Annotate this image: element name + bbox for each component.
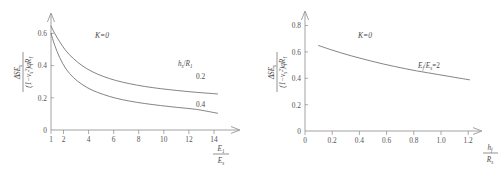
chart-panel-left: 0.6 0.4 0.2 0 1 2 4 6 8 10 <box>0 0 252 169</box>
right-ylab-den-close-sub: 1 <box>282 56 288 59</box>
left-y-axis-label: ΔSEs (1−νs2)qR1 <box>14 52 34 92</box>
right-xtick-5: 1.0 <box>436 136 446 145</box>
right-k-annotation: K=0 <box>357 31 372 40</box>
right-ytick-4: 0 <box>297 127 301 136</box>
left-family-den-sub: 1 <box>190 63 193 69</box>
left-xtick-6: 12 <box>185 135 193 144</box>
right-curve-label: Ef/Es=2 <box>417 62 440 71</box>
left-curve-label-0: 0.2 <box>196 72 206 81</box>
svg-text:ΔSEs: ΔSEs <box>268 65 277 80</box>
right-y-ticks: 0.8 0.6 0.4 0.2 0 <box>292 21 308 136</box>
left-ylab-num: ΔSE <box>14 66 22 80</box>
svg-text:(1−νs2)qR1: (1−νs2)qR1 <box>278 56 288 88</box>
right-y-axis-label: ΔSEs (1−νs2)qR1 <box>268 52 288 92</box>
left-xtick-4: 8 <box>137 135 141 144</box>
right-xtick-2: 0.4 <box>355 136 365 145</box>
curve-hs-R1-0.2 <box>51 26 218 94</box>
left-y-ticks: 0.6 0.4 0.2 0 <box>38 29 54 135</box>
left-chart-svg: 0.6 0.4 0.2 0 1 2 4 6 8 10 <box>0 0 252 169</box>
left-ylab-num-sub: s <box>17 65 23 67</box>
left-x-axis <box>51 127 240 134</box>
left-ytick-0: 0.6 <box>38 29 48 38</box>
left-ylab-den-close: )qR <box>25 58 33 70</box>
right-clab-eq: =2 <box>432 62 440 70</box>
right-y-axis <box>301 11 308 131</box>
right-xtick-1: 0.2 <box>328 136 338 145</box>
right-ylab-num: ΔSE <box>268 66 276 80</box>
left-curve-family-label: hs/R1 <box>178 60 193 69</box>
left-k-annotation: K=0 <box>94 31 109 40</box>
right-xtick-3: 0.6 <box>382 136 392 145</box>
right-xtick-4: 0.8 <box>409 136 419 145</box>
chart-panel-right: 0.8 0.6 0.4 0.2 0 0 0.2 0.4 0.6 0.8 <box>252 0 504 169</box>
svg-text:E1: E1 <box>217 145 225 154</box>
right-chart-svg: 0.8 0.6 0.4 0.2 0 0 0.2 0.4 0.6 0.8 <box>252 0 504 169</box>
right-ytick-0: 0.8 <box>292 21 302 30</box>
figure-canvas: 0.6 0.4 0.2 0 1 2 4 6 8 10 <box>0 0 504 169</box>
right-ylab-den-open: (1−ν <box>279 73 287 88</box>
right-x-axis <box>305 128 482 135</box>
left-xtick-5: 10 <box>160 135 168 144</box>
left-x-axis-label: E1 Es <box>213 145 229 166</box>
left-ytick-1: 0.4 <box>38 61 48 70</box>
left-xtick-2: 4 <box>87 135 91 144</box>
right-xtick-6: 1.2 <box>464 136 474 145</box>
right-xlab-num-sub: f <box>491 147 493 153</box>
svg-text:Rs: Rs <box>486 156 493 165</box>
svg-text:hs/R1: hs/R1 <box>178 60 193 69</box>
svg-text:ΔSEs: ΔSEs <box>14 65 23 80</box>
right-xtick-0: 0 <box>303 136 307 145</box>
curve-Ef-Es-2 <box>319 46 470 80</box>
left-xtick-3: 6 <box>112 135 116 144</box>
left-ytick-2: 0.2 <box>38 94 48 103</box>
svg-text:Ef/Es=2: Ef/Es=2 <box>417 62 440 71</box>
left-xlab-num-sub: 1 <box>222 148 225 154</box>
left-xtick-7: 14 <box>210 135 218 144</box>
svg-text:hf: hf <box>487 144 493 153</box>
svg-text:(1−νs2)qR1: (1−νs2)qR1 <box>24 56 34 88</box>
curve-hs-R1-0.4 <box>51 33 218 113</box>
left-xtick-0: 1 <box>49 135 53 144</box>
svg-text:Es: Es <box>217 157 224 166</box>
left-xlab-den-sub: s <box>222 160 224 166</box>
right-x-axis-label: hf Rs <box>483 144 498 165</box>
right-ylab-num-sub: s <box>271 65 277 67</box>
left-ylab-den-open: (1−ν <box>25 73 33 88</box>
right-ytick-1: 0.6 <box>292 48 302 57</box>
right-x-ticks: 0 0.2 0.4 0.6 0.8 1.0 1.2 <box>303 131 473 145</box>
right-ylab-den-close: )qR <box>279 58 287 70</box>
left-x-ticks: 1 2 4 6 8 10 12 14 <box>49 130 218 144</box>
left-ytick-3: 0 <box>43 126 47 135</box>
left-xtick-1: 2 <box>62 135 66 144</box>
right-xlab-den-sub: s <box>491 159 493 165</box>
left-ylab-den-close-sub: 1 <box>28 56 34 59</box>
right-ytick-2: 0.4 <box>292 74 302 83</box>
right-ytick-3: 0.2 <box>292 101 302 110</box>
left-curve-label-1: 0.4 <box>196 100 206 109</box>
